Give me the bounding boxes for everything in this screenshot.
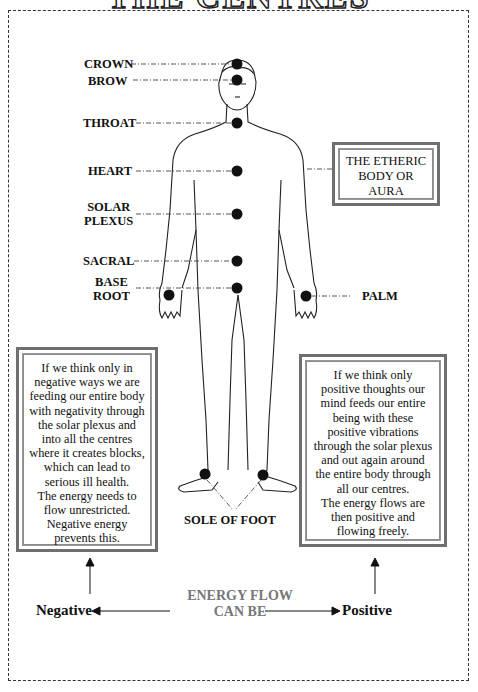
neg-line: Negative energy — [26, 517, 148, 531]
label-throat: THROAT — [83, 116, 136, 130]
aura-line3: AURA — [342, 184, 430, 199]
pos-line: then positive and — [309, 510, 437, 524]
neg-line: prevents this. — [26, 531, 148, 545]
neg-line: where it creates blocks, — [26, 446, 148, 460]
positive-text-box: If we think only positive thoughts our m… — [299, 354, 447, 547]
pos-line: flowing freely. — [309, 524, 437, 538]
label-palm: PALM — [362, 289, 398, 303]
label-solar-line1: SOLAR — [84, 200, 133, 214]
neg-line: feeding our entire body — [26, 389, 148, 403]
negative-text-box: If we think only in negative ways we are… — [16, 347, 158, 552]
label-base-line1: BASE — [93, 275, 130, 289]
label-solar-line2: PLEXUS — [84, 214, 133, 228]
neg-line: The energy needs to — [26, 489, 148, 503]
neg-line: serious ill health. — [26, 475, 148, 489]
chakra-dots — [164, 59, 312, 481]
neg-line: If we think only in — [26, 361, 148, 375]
aura-line1: THE ETHERIC — [342, 154, 430, 169]
pos-line: all our centres. — [309, 482, 437, 496]
label-brow: BROW — [88, 74, 128, 88]
aura-box: THE ETHERIC BODY OR AURA — [332, 142, 440, 206]
neg-line: negative ways we are — [26, 375, 148, 389]
positive-label: Positive — [342, 602, 392, 619]
neg-line: the solar plexus and — [26, 418, 148, 432]
pos-line: positive vibrations — [309, 425, 437, 439]
pos-line: The energy flows are — [309, 496, 437, 510]
label-heart: HEART — [88, 164, 132, 178]
negative-label: Negative — [36, 602, 92, 619]
pos-line: being with these — [309, 411, 437, 425]
label-sole-of-foot: SOLE OF FOOT — [184, 513, 276, 527]
pos-line: positive thoughts our — [309, 382, 437, 396]
neg-line: into all the centres — [26, 432, 148, 446]
label-sacral: SACRAL — [83, 254, 134, 268]
pos-line: If we think only — [309, 368, 437, 382]
aura-line2: BODY OR — [342, 169, 430, 184]
energy-flow-title: ENERGY FLOW CAN BE — [170, 588, 310, 620]
pos-line: through the solar plexus — [309, 439, 437, 453]
label-base-root: BASE ROOT — [93, 275, 130, 303]
pos-line: the entire body through — [309, 467, 437, 481]
label-solar-plexus: SOLAR PLEXUS — [84, 200, 133, 228]
label-base-line2: ROOT — [93, 289, 130, 303]
energy-flow-line2: CAN BE — [170, 604, 310, 620]
neg-line: which can lead to — [26, 460, 148, 474]
pos-line: mind feeds our entire — [309, 396, 437, 410]
neg-line: with negativity through — [26, 404, 148, 418]
label-crown: CROWN — [84, 57, 133, 71]
energy-flow-line1: ENERGY FLOW — [170, 588, 310, 604]
neg-line: flow unrestricted. — [26, 503, 148, 517]
pos-line: and out again around — [309, 453, 437, 467]
